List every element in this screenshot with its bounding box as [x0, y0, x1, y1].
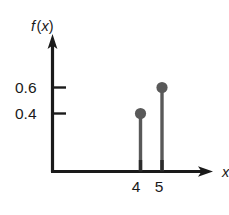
y-axis-label: f(x): [31, 18, 53, 34]
stem-plot: f(x) 0.6 0.4 4 5 x: [0, 0, 229, 215]
x-axis-label: x: [221, 164, 229, 180]
figure-container: f(x) 0.6 0.4 4 5 x: [0, 0, 229, 215]
y-axis-label-paren-close: ): [49, 18, 54, 34]
stem-marker-x4: [135, 108, 146, 119]
y-tick-label-0.6: 0.6: [15, 79, 37, 96]
x-tick-label-5: 5: [155, 178, 164, 195]
stem-marker-x5: [156, 82, 167, 93]
y-tick-label-0.4: 0.4: [15, 105, 37, 122]
x-tick-label-4: 4: [132, 178, 141, 195]
